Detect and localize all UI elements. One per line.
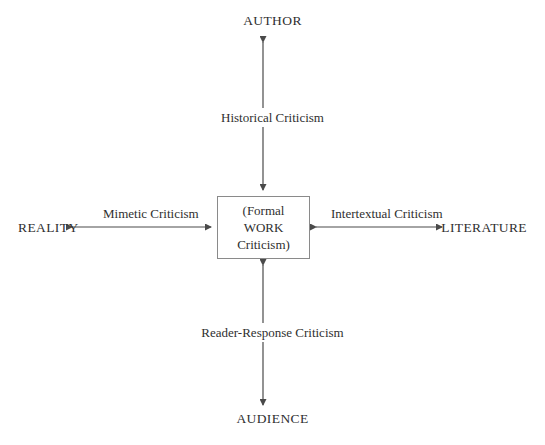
axis-label-reader-response-criticism: Reader-Response Criticism <box>0 326 545 339</box>
axis-label-historical-criticism-text: Historical Criticism <box>215 108 330 127</box>
critical-orientations-diagram: AUTHOR AUDIENCE REALITY LITERATURE Histo… <box>0 0 545 445</box>
work-box: (Formal WORK Criticism) <box>217 196 310 259</box>
axis-label-mimetic-criticism: Mimetic Criticism <box>98 205 204 222</box>
work-box-line-1: (Formal <box>243 202 285 219</box>
axis-label-historical-criticism: Historical Criticism <box>0 111 545 124</box>
pole-label-audience: AUDIENCE <box>0 412 545 426</box>
work-box-line-3: Criticism) <box>237 236 290 253</box>
pole-label-author: AUTHOR <box>0 14 545 28</box>
pole-label-literature: LITERATURE <box>441 221 527 235</box>
axis-label-intertextual-criticism: Intertextual Criticism <box>326 205 448 222</box>
axis-label-reader-response-criticism-text: Reader-Response Criticism <box>195 323 349 342</box>
work-box-line-2: WORK <box>244 219 284 236</box>
pole-label-reality: REALITY <box>18 221 79 235</box>
